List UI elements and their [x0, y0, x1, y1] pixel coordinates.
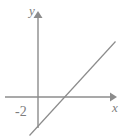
coordinate-plane-figure: y x -2 — [0, 0, 126, 138]
y-intercept-label: -2 — [15, 105, 27, 119]
x-axis-label: x — [112, 101, 118, 114]
plotted-line — [30, 42, 116, 136]
y-axis-label: y — [29, 4, 35, 17]
